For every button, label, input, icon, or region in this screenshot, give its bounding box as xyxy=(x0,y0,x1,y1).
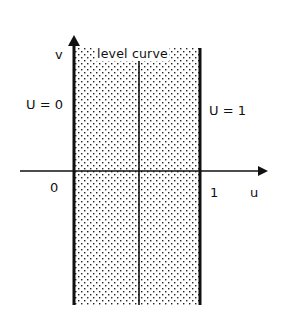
shaded-strip xyxy=(74,48,201,305)
level-curve-diagram: v level curve U = 0 U = 1 0 1 u xyxy=(0,0,282,334)
boundary-left-label: U = 0 xyxy=(26,98,63,112)
v-axis-label: v xyxy=(55,48,63,62)
u-axis-arrow-icon xyxy=(258,166,268,176)
tick-label-one: 1 xyxy=(210,186,218,200)
v-axis-arrow-icon xyxy=(68,35,80,46)
tick-label-zero: 0 xyxy=(50,181,58,195)
boundary-right-label: U = 1 xyxy=(209,104,246,118)
u-axis-label: u xyxy=(250,186,258,200)
level-curve-label: level curve xyxy=(96,47,169,61)
